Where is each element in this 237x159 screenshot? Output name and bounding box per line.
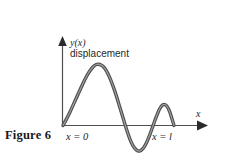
y-axis-description-label: displacement bbox=[70, 48, 129, 59]
plot-area: y(x) displacement x = 0 x = l x bbox=[0, 0, 237, 159]
figure-container: Figure 6 y(x) displacement x = 0 x = l x bbox=[0, 0, 237, 159]
x-axis-arrowhead bbox=[197, 121, 208, 131]
x-origin-label: x = 0 bbox=[65, 131, 89, 142]
y-axis-arrowhead bbox=[58, 36, 67, 46]
x-end-label: x = l bbox=[151, 131, 172, 142]
x-axis-symbol-label: x bbox=[195, 108, 201, 119]
